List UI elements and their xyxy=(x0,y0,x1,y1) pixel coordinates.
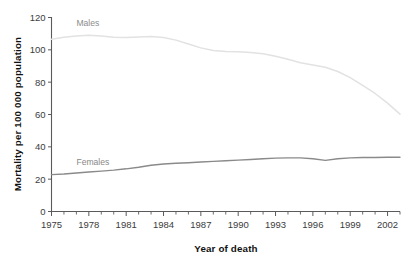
y-tick-label: 0 xyxy=(40,206,45,217)
line-series-males xyxy=(52,35,401,114)
y-tick-label: 40 xyxy=(35,141,46,152)
series-label-males: Males xyxy=(76,18,99,28)
data-series-group xyxy=(52,35,401,174)
x-tick-label: 1987 xyxy=(190,219,211,230)
y-axis-title: Mortality per 100 000 population xyxy=(12,37,23,192)
x-tick-label: 1990 xyxy=(228,219,249,230)
chart-canvas: 020406080100120 197519781981198419871990… xyxy=(0,0,408,268)
y-tick-label: 100 xyxy=(30,44,46,55)
y-tick-label: 20 xyxy=(35,174,46,185)
x-axis: 1975197819811984198719901993199619992002 xyxy=(41,212,400,230)
y-tick-label: 120 xyxy=(30,12,46,23)
y-tick-label: 80 xyxy=(35,77,46,88)
x-tick-label: 1981 xyxy=(116,219,137,230)
y-tick-label: 60 xyxy=(35,109,46,120)
x-tick-label: 1993 xyxy=(265,219,286,230)
x-tick-label: 2002 xyxy=(377,219,398,230)
y-axis: 020406080100120 xyxy=(30,12,52,217)
x-tick-label: 1978 xyxy=(78,219,99,230)
x-tick-label: 1975 xyxy=(41,219,62,230)
x-tick-label: 1984 xyxy=(153,219,174,230)
x-axis-title: Year of death xyxy=(194,243,257,254)
series-label-females: Females xyxy=(76,157,109,167)
x-tick-label: 1996 xyxy=(302,219,323,230)
x-tick-label: 1999 xyxy=(340,219,361,230)
mortality-line-chart: 020406080100120 197519781981198419871990… xyxy=(0,0,408,268)
